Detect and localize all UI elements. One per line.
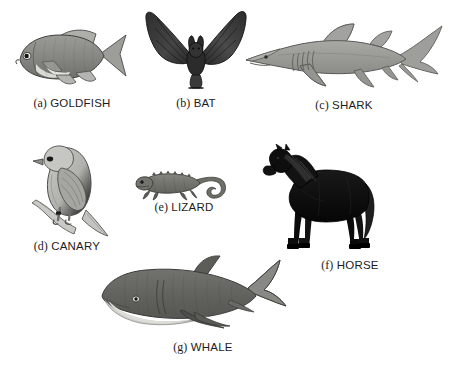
caption-bat: (b) BAT bbox=[146, 97, 246, 110]
caption-lizard: (e) LIZARD bbox=[134, 201, 234, 214]
caption-label-canary: CANARY bbox=[51, 240, 100, 252]
shark-illustration bbox=[242, 22, 448, 94]
caption-enum-a: (a) bbox=[33, 96, 46, 110]
caption-goldfish: (a) GOLDFISH bbox=[12, 97, 132, 110]
bat-illustration bbox=[142, 4, 250, 92]
canary-illustration bbox=[30, 140, 120, 240]
caption-label-whale: WHALE bbox=[191, 341, 233, 353]
caption-enum-e: (e) bbox=[155, 200, 168, 214]
horse-illustration bbox=[262, 144, 388, 256]
caption-enum-d: (d) bbox=[34, 239, 48, 253]
caption-enum-c: (c) bbox=[315, 98, 328, 112]
caption-shark: (c) SHARK bbox=[294, 99, 394, 112]
caption-enum-f: (f) bbox=[321, 258, 333, 272]
caption-enum-g: (g) bbox=[173, 340, 187, 354]
caption-canary: (d) CANARY bbox=[8, 240, 126, 253]
caption-whale: (g) WHALE bbox=[148, 341, 258, 354]
caption-label-horse: HORSE bbox=[337, 259, 379, 271]
lizard-illustration bbox=[134, 164, 230, 204]
whale-illustration bbox=[98, 254, 298, 338]
caption-enum-b: (b) bbox=[176, 96, 190, 110]
caption-label-goldfish: GOLDFISH bbox=[50, 97, 110, 109]
caption-label-shark: SHARK bbox=[332, 99, 373, 111]
caption-label-lizard: LIZARD bbox=[171, 201, 213, 213]
figure-plate: (a) GOLDFISH bbox=[0, 0, 460, 366]
goldfish-illustration bbox=[12, 18, 132, 94]
caption-horse: (f) HORSE bbox=[300, 259, 400, 272]
caption-label-bat: BAT bbox=[194, 97, 216, 109]
